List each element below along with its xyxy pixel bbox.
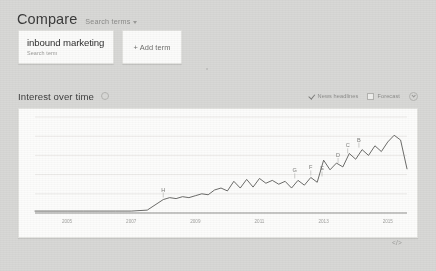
search-term-text: inbound marketing: [27, 37, 105, 48]
svg-text:D: D: [336, 152, 340, 158]
svg-text:G: G: [293, 167, 297, 173]
forecast-toggle[interactable]: Forecast: [367, 93, 400, 100]
add-term-label: + Add term: [134, 43, 171, 52]
embed-code-button[interactable]: </>: [392, 239, 402, 246]
svg-text:2007: 2007: [126, 219, 137, 224]
chevron-down-icon: [133, 21, 137, 24]
decorative-dot: [206, 68, 208, 70]
download-circle-icon[interactable]: [409, 92, 418, 101]
svg-text:F: F: [309, 164, 313, 170]
add-term-button[interactable]: + Add term: [122, 30, 182, 64]
svg-text:2005: 2005: [62, 219, 73, 224]
interest-over-time-chart-card: 200520072009201120132015HGFEDCB: [18, 108, 418, 238]
check-icon: [309, 93, 315, 99]
checkbox-icon: [367, 93, 374, 100]
section-title: Interest over time: [18, 91, 94, 102]
search-term-subtitle: Search term: [27, 50, 105, 56]
search-term-cards: inbound marketing Search term + Add term: [18, 30, 182, 64]
info-circle-icon[interactable]: [101, 92, 109, 100]
chart-controls: News headlines Forecast: [309, 92, 418, 101]
svg-text:2013: 2013: [319, 219, 330, 224]
page-title: Compare: [17, 11, 77, 27]
search-terms-dropdown[interactable]: Search terms: [85, 17, 137, 26]
svg-text:B: B: [357, 137, 361, 143]
search-term-card[interactable]: inbound marketing Search term: [18, 30, 114, 64]
news-headlines-label: News headlines: [318, 93, 359, 99]
svg-text:H: H: [161, 187, 165, 193]
svg-text:2009: 2009: [190, 219, 201, 224]
search-terms-dropdown-label: Search terms: [85, 17, 130, 26]
trends-line-chart[interactable]: 200520072009201120132015HGFEDCB: [19, 109, 419, 239]
forecast-label: Forecast: [377, 93, 400, 99]
svg-text:C: C: [346, 142, 350, 148]
google-trends-page: Compare Search terms inbound marketing S…: [0, 0, 436, 271]
svg-text:2015: 2015: [383, 219, 394, 224]
compare-header: Compare Search terms: [17, 11, 137, 27]
svg-text:2011: 2011: [255, 219, 265, 224]
news-headlines-toggle[interactable]: News headlines: [309, 93, 359, 99]
svg-text:E: E: [320, 165, 324, 171]
interest-over-time-header: Interest over time News headlines Foreca…: [18, 88, 418, 104]
